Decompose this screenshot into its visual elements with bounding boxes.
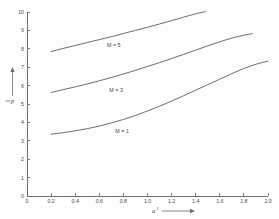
x-tick-label: 0.8 [120,198,127,204]
x-tick-label: 2.0 [264,198,271,204]
y-tick-label: 9 [21,27,24,33]
x-tick-label: 0 [26,198,29,204]
series-label-3: M = 1 [115,128,129,134]
y-tick-label: 7 [21,64,24,70]
chart-figure: 00.20.40.60.81.01.21.41.61.82.0 01234567… [0,0,279,219]
y-axis-title-text: p [10,97,14,104]
data-curve-2 [51,34,252,93]
y-tick-label: 5 [21,101,24,107]
series-labels: M = 5M = 3M = 1 [107,42,129,134]
x-axis-title-exponent: 2 [156,206,158,211]
x-tick-label: 1.8 [240,198,247,204]
x-tick-label: 0.6 [96,198,103,204]
x-tick-label: 1.2 [168,198,175,204]
data-curve-1 [51,12,205,52]
x-tick-label: 1.6 [216,198,223,204]
y-tick-label: 3 [21,138,24,144]
x-tick-label: 1.0 [144,198,151,204]
y-axis-title-group: p [6,67,15,104]
y-tick-label: 1 [21,175,24,181]
y-tick-label: 6 [21,83,24,89]
data-curves [51,12,268,135]
chart-canvas: 00.20.40.60.81.01.21.41.61.82.0 01234567… [0,0,279,219]
x-axis-title-group: a2 [152,206,195,214]
series-label-1: M = 5 [107,42,121,48]
x-tick-labels: 00.20.40.60.81.01.21.41.61.82.0 [26,198,272,204]
x-tick-label: 0.4 [72,198,79,204]
y-tick-label: 10 [18,9,24,15]
series-label-2: M = 3 [109,87,123,93]
y-tick-label: 8 [21,46,24,52]
y-tick-label: 2 [21,156,24,162]
x-tick-label: 1.4 [192,198,199,204]
x-tick-label: 0.2 [47,198,54,204]
x-axis-title-base: a [152,207,155,214]
axes-group [27,12,268,196]
y-tick-label: 0 [21,193,24,199]
y-tick-labels: 012345678910 [18,9,24,199]
x-axis-arrow-head [190,209,195,214]
y-tick-label: 4 [21,119,24,125]
data-curve-3 [51,61,268,134]
y-axis-arrow-head [10,67,14,72]
